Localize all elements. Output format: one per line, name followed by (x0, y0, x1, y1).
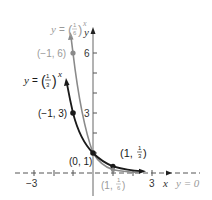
asymptote-label: y = 0 (175, 177, 200, 189)
exponential-graph: y = ( 1 6 ) x y = ( 1 3 ) x (−1, 6) (−1,… (0, 0, 212, 200)
svg-text:(1,: (1, (101, 180, 113, 191)
label-one-third-equation: y = ( 1 3 ) x (23, 69, 62, 89)
svg-text:y: y (23, 74, 29, 86)
svg-text:y: y (50, 23, 56, 35)
svg-text:6: 6 (117, 185, 121, 191)
label-point-neg1-3: (−1, 3) (38, 108, 67, 119)
tick-label-neg3: −3 (26, 178, 38, 189)
point-0-1 (90, 150, 96, 156)
axis-label-x: x (162, 177, 168, 189)
svg-text:6: 6 (73, 30, 77, 36)
tick-label-3x: 3 (149, 178, 155, 189)
label-one-sixth-equation: y = ( 1 6 ) x (50, 19, 87, 37)
label-point-neg1-6: (−1, 6) (37, 48, 66, 59)
point-1-sixth (111, 168, 115, 172)
x-axis-arrow-icon (166, 171, 172, 176)
point-neg1-3 (70, 110, 76, 116)
svg-text:=: = (32, 75, 38, 86)
label-point-1-sixth: (1, 1 6 ) (101, 177, 125, 191)
svg-text:x: x (57, 69, 62, 79)
tick-label-6y: 6 (84, 48, 90, 59)
y-axis-arrow-icon (91, 27, 96, 34)
y-ticks (93, 53, 97, 153)
svg-text:): ) (78, 22, 82, 37)
svg-text:1: 1 (138, 145, 142, 151)
svg-text:): ) (52, 73, 57, 89)
svg-text:(1,: (1, (120, 147, 133, 159)
label-point-1-third: (1, 1 3 ) (120, 145, 147, 159)
svg-text:1: 1 (117, 177, 121, 183)
svg-text:3: 3 (46, 82, 50, 88)
curve-one-third-arrow-icon (64, 78, 70, 86)
svg-text:): ) (143, 147, 147, 159)
axis-label-y: y (83, 26, 89, 38)
svg-text:): ) (122, 180, 125, 191)
svg-text:1: 1 (46, 73, 50, 79)
svg-text:=: = (59, 24, 65, 35)
svg-text:3: 3 (138, 153, 142, 159)
label-point-0-1: (0, 1) (69, 156, 92, 167)
svg-text:1: 1 (73, 22, 77, 28)
point-neg1-6 (70, 50, 75, 55)
tick-label-3y: 3 (84, 108, 90, 119)
